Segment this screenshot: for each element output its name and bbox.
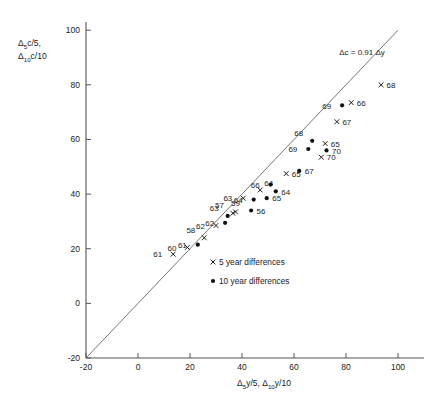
- data-point-dot: [223, 221, 227, 225]
- slope-annotation: Δc = 0.91 Δy: [339, 48, 385, 57]
- data-point-label: 67: [305, 167, 314, 176]
- x-tick-label: 100: [391, 362, 405, 372]
- data-point-label: 67: [342, 118, 351, 127]
- data-point-dot: [306, 147, 310, 151]
- x-tick-label: -20: [80, 362, 93, 372]
- data-point-label: 56: [257, 207, 266, 216]
- data-point-label: 65: [272, 194, 281, 203]
- x-tick-label: 80: [341, 362, 351, 372]
- data-point-label: 61: [178, 241, 187, 250]
- chart-canvas: -20020406080100-20020406080100Δ5c/5,Δ10c…: [0, 0, 438, 394]
- legend-label: 5 year differences: [219, 257, 285, 267]
- data-point-label: 64: [234, 196, 243, 205]
- data-point-label: 66: [251, 181, 260, 190]
- data-point-dot: [324, 148, 328, 152]
- y-tick-label: 0: [75, 298, 80, 308]
- data-point-dot: [196, 243, 200, 247]
- y-tick-label: 60: [71, 134, 81, 144]
- data-point-label: 68: [294, 129, 303, 138]
- scatter-plot-figure: -20020406080100-20020406080100Δ5c/5,Δ10c…: [0, 0, 438, 394]
- data-point-label: 68: [387, 81, 396, 90]
- y-tick-label: 80: [71, 80, 81, 90]
- data-point-label: 70: [332, 147, 341, 156]
- data-point-label: 64: [281, 188, 290, 197]
- x-tick-label: 20: [185, 362, 195, 372]
- legend-label: 10 year differences: [219, 276, 289, 286]
- legend: 5 year differences10 year differences: [211, 257, 290, 286]
- data-point-dot: [252, 197, 256, 201]
- data-point-dot: [274, 189, 278, 193]
- data-point-label: 63: [210, 204, 219, 213]
- y-tick-label: 40: [71, 189, 81, 199]
- x-tick-label: 0: [136, 362, 141, 372]
- data-point-label: 64: [264, 179, 273, 188]
- x-axis-title: Δ5y/5, Δ10y/10: [237, 378, 291, 390]
- x-tick-label: 40: [237, 362, 247, 372]
- legend-marker-dot: [211, 279, 215, 283]
- data-point-label: 60: [167, 244, 176, 253]
- data-point-label: 69: [322, 102, 331, 111]
- data-point-label: 61: [153, 250, 162, 259]
- data-point-dot: [340, 103, 344, 107]
- data-point-dot: [269, 182, 273, 186]
- data-point-label: 62: [196, 222, 205, 231]
- data-point-dot: [249, 208, 253, 212]
- data-point-label: 62: [205, 219, 214, 228]
- y-tick-label: 100: [66, 25, 80, 35]
- y-axis-title: Δ5c/5,Δ10c/10: [18, 38, 47, 63]
- data-point-label: 69: [288, 145, 297, 154]
- y-tick-label: 20: [71, 244, 81, 254]
- x-tick-label: 60: [289, 362, 299, 372]
- data-point-dot: [226, 214, 230, 218]
- data-point-label: 66: [357, 99, 366, 108]
- series-cross: 6160586257596364656766686570: [153, 81, 396, 259]
- y-tick-label: -20: [68, 353, 81, 363]
- data-point-label: 63: [223, 194, 232, 203]
- data-point-label: 58: [186, 226, 195, 235]
- data-point-dot: [297, 169, 301, 173]
- data-point-dot: [310, 139, 314, 143]
- data-point-dot: [265, 196, 269, 200]
- reference-line: [86, 30, 398, 358]
